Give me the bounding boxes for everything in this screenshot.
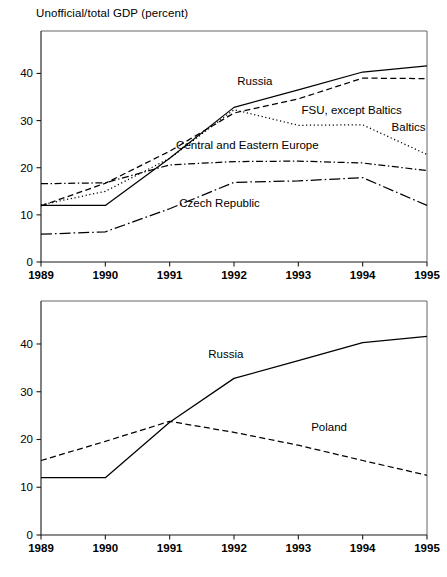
y-axis-tick-label: 0: [27, 256, 33, 268]
y-axis-tick-label: 40: [20, 338, 33, 350]
x-axis-tick-label: 1995: [414, 542, 440, 554]
chart-panel-top: 0102030401989199019911992199319941995Rus…: [0, 22, 447, 284]
x-axis-tick-label: 1993: [286, 542, 312, 554]
x-axis-tick-label: 1992: [221, 269, 247, 281]
series-label: Central and Eastern Europe: [176, 139, 319, 151]
x-axis-tick-label: 1989: [28, 269, 54, 281]
x-axis-tick-label: 1992: [221, 542, 247, 554]
footer-partial-caption: [0, 566, 447, 577]
series-line: [41, 421, 427, 475]
x-axis-tick-label: 1991: [157, 269, 183, 281]
y-axis-tick-label: 0: [27, 529, 33, 541]
x-axis-tick-label: 1989: [28, 542, 54, 554]
y-axis-tick-label: 20: [20, 433, 33, 445]
x-axis-tick-label: 1990: [93, 269, 119, 281]
series-label: Poland: [311, 421, 347, 433]
y-axis-tick-label: 30: [20, 115, 33, 127]
y-axis-tick-label: 10: [20, 209, 33, 221]
series-line: [41, 110, 427, 205]
x-axis-tick-label: 1994: [350, 269, 376, 281]
x-axis-tick-label: 1993: [286, 269, 312, 281]
y-axis-tick-label: 30: [20, 386, 33, 398]
series-label: Russia: [208, 348, 244, 360]
y-axis-tick-label: 20: [20, 162, 33, 174]
series-label: Russia: [237, 75, 273, 87]
x-axis-tick-label: 1995: [414, 269, 440, 281]
y-axis-tick-label: 10: [20, 481, 33, 493]
page-title: Unofficial/total GDP (percent): [36, 7, 188, 19]
figure-page: Unofficial/total GDP (percent) 010203040…: [0, 0, 447, 577]
x-axis-tick-label: 1991: [157, 542, 183, 554]
series-line: [41, 66, 427, 206]
chart-panel-bottom: 0102030401989199019911992199319941995Rus…: [0, 296, 447, 561]
line-chart-top: 0102030401989199019911992199319941995Rus…: [0, 22, 447, 284]
series-label: FSU, except Baltics: [302, 104, 403, 116]
x-axis-tick-label: 1990: [93, 542, 119, 554]
series-label: Baltics: [392, 121, 426, 133]
x-axis-tick-label: 1994: [350, 542, 376, 554]
y-axis-tick-label: 40: [20, 67, 33, 79]
series-label: Czech Republic: [179, 197, 260, 209]
line-chart-bottom: 0102030401989199019911992199319941995Rus…: [0, 296, 447, 561]
